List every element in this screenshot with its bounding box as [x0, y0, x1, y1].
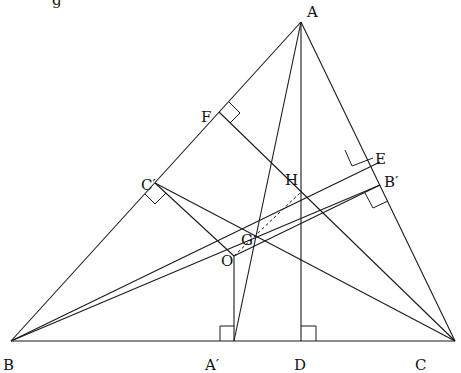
perp-bisector-c-prime-o: [155, 183, 234, 256]
label-a-prime: A′: [204, 356, 220, 373]
label-c: C: [415, 356, 426, 373]
label-f: F: [201, 108, 211, 126]
label-o: O: [221, 252, 233, 270]
side-ac: [301, 22, 455, 341]
label-b: B: [3, 356, 14, 373]
perp-bisector-b-prime-o: [234, 185, 380, 256]
clipped-caption-text: g: [52, 0, 62, 9]
altitude-cf: [219, 112, 455, 341]
side-ab: [11, 22, 301, 341]
label-c-prime: C′: [141, 176, 156, 194]
right-angle-marker-f: [229, 102, 240, 123]
label-a: A: [306, 3, 318, 21]
altitude-be: [11, 162, 380, 341]
median-bb-prime: [11, 185, 380, 341]
median-cc-prime: [155, 183, 455, 341]
right-angle-marker-a-prime: [220, 326, 234, 341]
label-g: G: [241, 231, 253, 249]
right-angle-marker-c-prime: [145, 193, 166, 204]
label-d: D: [294, 356, 306, 373]
geometry-diagram: g A B C A′ D F C′ E B′ H G O: [0, 0, 461, 373]
right-angle-marker-d: [301, 326, 316, 341]
label-b-prime: B′: [384, 173, 399, 191]
label-e: E: [375, 150, 386, 168]
label-h: H: [285, 171, 298, 189]
